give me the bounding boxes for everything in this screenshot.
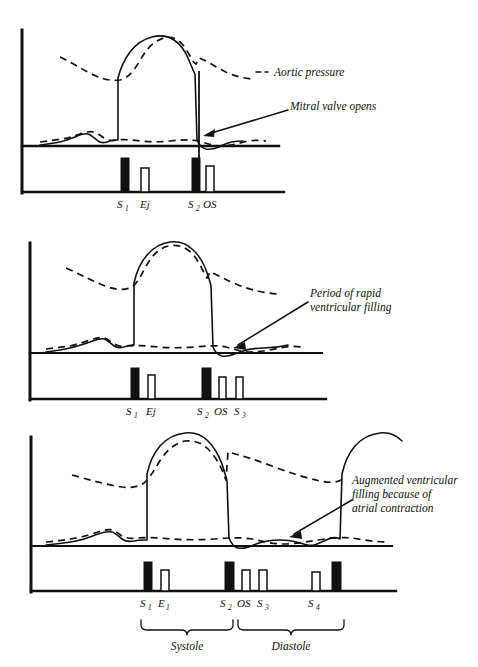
svg-text:S: S [188, 198, 194, 210]
panel-1-sound-label-ej: Ej [139, 198, 150, 210]
panel-2-annotation-rapid-filling-line-2: ventricular filling [310, 301, 392, 314]
panel-1-sound-bar-ej [141, 168, 149, 192]
panel-3-sound-bar-s4 [312, 572, 320, 591]
svg-text:S: S [197, 405, 203, 417]
panel-2-sound-label-s2: S 2 [197, 405, 209, 420]
panel-3-augmented-filling-arrowhead [289, 531, 302, 539]
panel-3-sound-bar-s3 [259, 570, 267, 591]
panel-3-sound-bar-next-s1 [332, 562, 341, 591]
panel-3-sound-label-s2: S 2 [220, 597, 232, 612]
panel-2-sound-label-os: OS [214, 405, 228, 417]
svg-text:S: S [126, 405, 132, 417]
svg-text:E: E [157, 597, 165, 609]
panel-3-annotation-augmented-line-1: Augmented ventricular [351, 474, 458, 487]
panel-3-sound-bar-os [242, 570, 250, 591]
svg-text:4: 4 [316, 603, 320, 612]
panel-1-sound-bar-s1 [121, 158, 129, 192]
svg-text:1: 1 [148, 603, 152, 612]
panel-3-phase-label-systole: Systole [171, 640, 204, 653]
panel-1-mitral-leader [208, 110, 288, 134]
panel-3: S 1 E 1 S 2 OS S 3 S 4 Augmented ventric… [31, 433, 458, 653]
panel-1-atrial-pressure-curve [40, 132, 266, 146]
panel-3-sound-label-s3: S 3 [257, 597, 269, 612]
panel-2-sound-label-s1: S 1 [126, 405, 138, 420]
svg-text:S: S [140, 597, 146, 609]
panel-1-sound-label-s2: S 2 [188, 198, 200, 213]
svg-text:1: 1 [125, 204, 129, 213]
panel-1-annotation-mitral-valve-opens: Mitral valve opens [289, 100, 377, 113]
panel-3-sound-bar-s2 [225, 562, 234, 591]
cardiac-cycle-figure: S 1 Ej S 2 OS Aortic pressure Mitral val… [0, 0, 478, 667]
panel-3-sound-label-os: OS [237, 597, 251, 609]
panel-3-sound-bar-e1 [161, 570, 169, 591]
panel-2-rapid-filling-leader [238, 302, 308, 345]
panel-1-sound-bar-os [206, 166, 214, 192]
panel-2-aortic-pressure-curve [66, 245, 278, 294]
svg-text:S: S [257, 597, 263, 609]
svg-text:3: 3 [264, 603, 269, 612]
svg-text:1: 1 [134, 411, 138, 420]
panel-3-annotation-augmented-line-3: atrial contraction [352, 502, 434, 514]
panel-1-sound-bar-s2 [192, 158, 200, 192]
panel-3-augmented-filling-leader [294, 500, 352, 534]
svg-text:1: 1 [166, 603, 170, 612]
diagram-canvas: S 1 Ej S 2 OS Aortic pressure Mitral val… [0, 0, 478, 667]
svg-text:S: S [308, 597, 314, 609]
panel-3-sound-label-s4: S 4 [308, 597, 320, 612]
svg-text:S: S [117, 198, 123, 210]
panel-1-annotation-aortic-pressure: Aortic pressure [273, 66, 344, 79]
svg-text:3: 3 [241, 411, 246, 420]
panel-2-ventricular-pressure-curve [46, 242, 288, 357]
panel-2-sound-bar-os [219, 377, 226, 399]
panel-2-sound-label-s3: S 3 [234, 405, 246, 420]
svg-text:2: 2 [196, 204, 200, 213]
panel-3-systole-brace [141, 620, 233, 635]
panel-2: S 1 Ej S 2 OS S 3 Period of rapid ventri… [30, 242, 392, 420]
panel-3-annotation-augmented-line-2: filling because of [352, 488, 433, 501]
panel-3-aortic-pressure-curve [72, 441, 344, 488]
panel-2-sound-bar-ej [148, 375, 155, 399]
panel-2-sound-bar-s3 [236, 377, 243, 399]
panel-2-sound-label-ej: Ej [145, 405, 156, 417]
panel-1: S 1 Ej S 2 OS Aortic pressure Mitral val… [22, 30, 377, 213]
panel-3-sound-bar-s1 [144, 562, 152, 591]
panel-2-sound-bar-s2 [202, 368, 211, 399]
panel-1-mitral-arrowhead [203, 129, 215, 137]
panel-3-sound-label-s1: S 1 [140, 597, 152, 612]
panel-3-phase-label-diastole: Diastole [271, 640, 311, 652]
panel-2-sound-bar-s1 [131, 368, 139, 399]
svg-text:2: 2 [205, 411, 209, 420]
panel-2-atrial-pressure-curve [46, 338, 302, 352]
svg-text:S: S [234, 405, 240, 417]
panel-1-sound-label-os: OS [203, 198, 217, 210]
svg-text:2: 2 [228, 603, 232, 612]
panel-3-sound-label-e1: E 1 [157, 597, 170, 612]
panel-3-atrial-pressure-curve [46, 530, 388, 544]
panel-3-diastole-brace [238, 620, 344, 635]
svg-text:S: S [220, 597, 226, 609]
panel-2-annotation-rapid-filling-line-1: Period of rapid [309, 287, 381, 300]
panel-1-aortic-pressure-curve [60, 37, 252, 80]
panel-1-sound-label-s1: S 1 [117, 198, 129, 213]
